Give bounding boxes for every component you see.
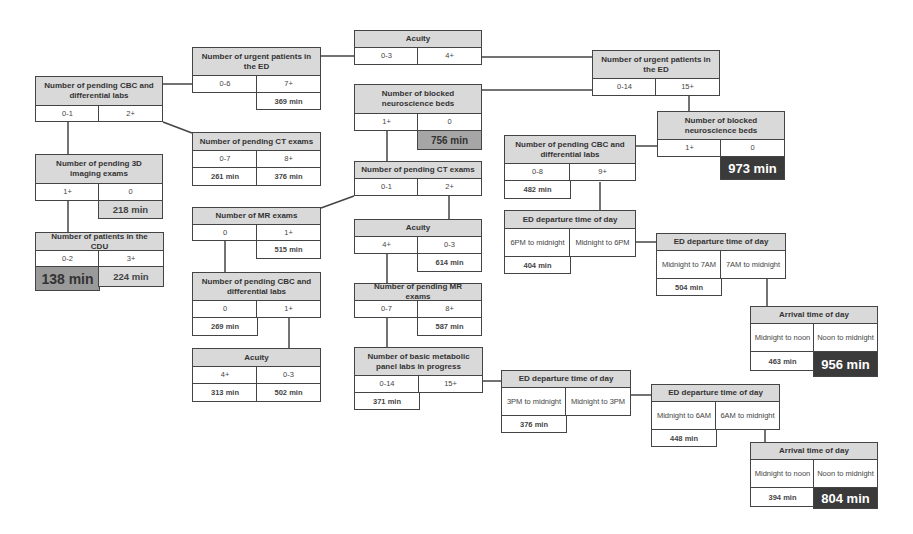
- node-mr-left: Number of MR exams 0 1+ 515 min: [192, 207, 321, 259]
- result-right: 956 min: [813, 351, 878, 377]
- node-bmp: Number of basic metabolic panel labs in …: [354, 347, 483, 410]
- branch-left: Midnight to noon: [750, 323, 815, 352]
- branch-left: 1+: [354, 113, 419, 131]
- branch-right: Midnight to 6PM: [569, 228, 636, 257]
- node-title: Number of pending MR exams: [354, 283, 482, 301]
- branch-left: 0: [192, 300, 258, 318]
- branch-right: 0: [417, 113, 482, 131]
- branch-right: Noon to midnight: [813, 323, 878, 352]
- node-acuity-low-left: Acuity 4+ 0-3 313 min 502 min: [192, 348, 321, 402]
- node-title: Number of pending CT exams: [192, 132, 321, 151]
- node-mr-pending-mid: Number of pending MR exams 0-7 8+ 587 mi…: [354, 283, 482, 336]
- branch-left: 1+: [657, 139, 722, 157]
- branch-right: 4+: [417, 47, 482, 65]
- branch-left: 0-14: [354, 375, 420, 393]
- result-right: 614 min: [417, 253, 482, 272]
- branch-right: 0-3: [256, 366, 321, 384]
- result-left: 463 min: [750, 351, 815, 371]
- branch-right: 2+: [98, 105, 163, 122]
- node-cdu: Number of patients in the CDU 0-2 3+ 138…: [35, 232, 164, 290]
- node-ed-departure-2: ED departure time of day Midnight to 7AM…: [656, 233, 786, 296]
- branch-right: Noon to midnight: [813, 459, 878, 488]
- node-blocked-mid: Number of blocked neuroscience beds 1+ 0…: [354, 84, 482, 150]
- node-title: Number of blocked neuroscience beds: [657, 111, 785, 140]
- branch-left: 0-7: [192, 150, 258, 168]
- result-left: 371 min: [354, 392, 420, 410]
- result-right: 587 min: [417, 317, 482, 336]
- result-right: 376 min: [256, 167, 321, 186]
- result-left: 313 min: [192, 383, 258, 402]
- branch-left: Midnight to 7AM: [656, 250, 722, 279]
- node-ed-departure-4: ED departure time of day Midnight to 6AM…: [651, 384, 780, 447]
- branch-right: 8+: [417, 300, 482, 318]
- result-right: 502 min: [256, 383, 321, 402]
- result-right: 224 min: [98, 266, 164, 287]
- branch-right: 0-3: [417, 236, 482, 254]
- result-left: 504 min: [656, 278, 722, 296]
- result-right: 369 min: [256, 92, 321, 110]
- node-title: Number of pending CBC and differential l…: [35, 76, 163, 106]
- branch-right: Midnight to 3PM: [565, 387, 631, 416]
- branch-right: 1+: [256, 224, 321, 241]
- node-title: Number of pending CBC and differential l…: [504, 135, 636, 164]
- branch-left: 0-14: [592, 78, 657, 96]
- node-title: Number of patients in the CDU: [35, 232, 164, 251]
- branch-left: Midnight to noon: [750, 459, 815, 488]
- branch-left: 0-7: [354, 300, 419, 318]
- node-3d-imaging: Number of pending 3D imaging exams 1+ 0 …: [35, 154, 163, 219]
- node-arrival-2: Arrival time of day Midnight to noon Noo…: [750, 442, 878, 509]
- branch-left: 3PM to midnight: [501, 387, 567, 416]
- branch-right: 3+: [98, 250, 164, 267]
- branch-left: 4+: [354, 236, 419, 254]
- node-ct-left: Number of pending CT exams 0-7 8+ 261 mi…: [192, 132, 321, 186]
- branch-right: 1+: [256, 300, 321, 318]
- branch-left: 4+: [192, 366, 258, 384]
- branch-left: Midnight to 6AM: [651, 401, 717, 430]
- branch-right: 0: [98, 183, 163, 201]
- node-title: Number of basic metabolic panel labs in …: [354, 347, 483, 376]
- branch-right: 2+: [417, 178, 482, 196]
- branch-left: 0: [192, 224, 258, 241]
- result-left: 138 min: [35, 266, 100, 291]
- node-ed-departure-3: ED departure time of day 3PM to midnight…: [501, 370, 631, 433]
- branch-left: 0-1: [354, 178, 419, 196]
- node-title: Number of urgent patients in the ED: [192, 47, 321, 76]
- node-cbc-mid-left: Number of pending CBC and differential l…: [192, 272, 321, 336]
- node-title: Acuity: [192, 348, 321, 367]
- branch-left: 1+: [35, 183, 100, 201]
- node-ed-departure-1: ED departure time of day 6PM to midnight…: [504, 210, 636, 274]
- result-left: 394 min: [750, 487, 815, 507]
- branch-right: 7AM to midnight: [720, 250, 786, 279]
- branch-left: 0-8: [504, 163, 571, 181]
- node-cbc-top-left: Number of pending CBC and differential l…: [35, 76, 163, 122]
- node-title: Number of MR exams: [192, 207, 321, 225]
- node-acuity-mid: Acuity 4+ 0-3 614 min: [354, 219, 482, 272]
- branch-right: 0: [720, 139, 785, 157]
- node-title: ED departure time of day: [656, 233, 786, 251]
- result-right: 804 min: [813, 487, 878, 509]
- result-left: 376 min: [501, 415, 567, 433]
- node-title: ED departure time of day: [651, 384, 780, 402]
- branch-left: 0-3: [354, 47, 419, 65]
- node-title: Acuity: [354, 30, 482, 48]
- node-acuity-root: Acuity 0-3 4+: [354, 30, 482, 65]
- result-right: 515 min: [256, 240, 321, 259]
- node-title: ED departure time of day: [501, 370, 631, 388]
- result-right: 973 min: [720, 156, 785, 180]
- branch-left: 0-2: [35, 250, 100, 267]
- node-title: Number of blocked neuroscience beds: [354, 84, 482, 114]
- branch-right: 6AM to midnight: [715, 401, 780, 430]
- result-left: 269 min: [192, 317, 258, 336]
- branch-right: 8+: [256, 150, 321, 168]
- branch-right: 7+: [256, 75, 321, 93]
- node-urgent-right: Number of urgent patients in the ED 0-14…: [592, 50, 720, 96]
- node-title: Number of pending CBC and differential l…: [192, 272, 321, 301]
- result-left: 482 min: [504, 180, 571, 199]
- branch-right: 9+: [569, 163, 636, 181]
- node-blocked-right: Number of blocked neuroscience beds 1+ 0…: [657, 111, 785, 180]
- result-right: 756 min: [417, 130, 482, 150]
- node-title: Number of urgent patients in the ED: [592, 50, 720, 79]
- node-title: ED departure time of day: [504, 210, 636, 229]
- node-cbc-right: Number of pending CBC and differential l…: [504, 135, 636, 199]
- branch-left: 6PM to midnight: [504, 228, 571, 257]
